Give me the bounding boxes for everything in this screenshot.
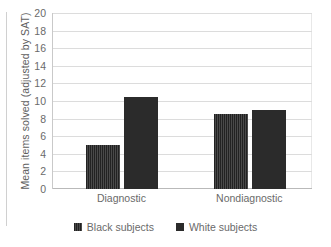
y-tick-label-6: 6	[24, 131, 46, 142]
gridline-12	[53, 83, 312, 84]
figure-left-rule	[6, 12, 7, 226]
y-tick-label-16: 16	[24, 43, 46, 54]
legend-swatch-white-subjects	[176, 223, 184, 231]
y-tick-label-14: 14	[24, 61, 46, 72]
y-tick-label-2: 2	[24, 166, 46, 177]
gridline-14	[53, 66, 312, 67]
x-label-nondiagnostic: Nondiagnostic	[216, 192, 283, 204]
chart-figure: Mean items solved (adjusted by SAT) 2018…	[0, 0, 331, 247]
y-tick-label-0: 0	[24, 184, 46, 195]
x-label-diagnostic: Diagnostic	[97, 192, 146, 204]
plot-area	[52, 13, 312, 189]
legend-item-black[interactable]: Black subjects	[74, 221, 154, 233]
legend-item-white[interactable]: White subjects	[176, 221, 257, 233]
legend-swatch-black-subjects	[74, 223, 82, 231]
y-tick-label-18: 18	[24, 25, 46, 36]
bar-diagnostic-black	[86, 145, 120, 189]
bar-nondiagnostic-white	[252, 110, 286, 189]
legend-label-black: Black subjects	[87, 221, 154, 233]
chart-legend: Black subjectsWhite subjects	[0, 221, 331, 233]
y-tick-label-12: 12	[24, 78, 46, 89]
y-tick-label-10: 10	[24, 96, 46, 107]
legend-label-white: White subjects	[189, 221, 257, 233]
y-tick-label-20: 20	[24, 8, 46, 19]
gridline-20	[53, 13, 312, 14]
gridline-18	[53, 31, 312, 32]
bar-nondiagnostic-black	[214, 114, 248, 189]
x-axis-category-labels: DiagnosticNondiagnostic	[52, 192, 312, 210]
gridline-16	[53, 48, 312, 49]
y-axis-tick-labels: 20181614121086420	[24, 13, 46, 189]
gridline-10	[53, 101, 312, 102]
y-tick-label-4: 4	[24, 149, 46, 160]
y-tick-label-8: 8	[24, 113, 46, 124]
bar-diagnostic-white	[124, 97, 158, 189]
